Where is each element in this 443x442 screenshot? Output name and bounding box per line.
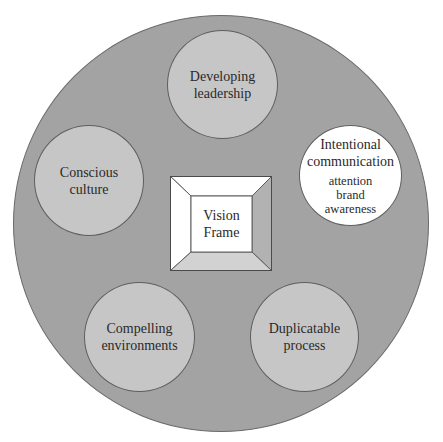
node-sublabel: attention brand awareness <box>325 174 376 216</box>
node-label: Compelling environments <box>101 320 177 354</box>
node-label: Intentional communication <box>307 136 394 170</box>
node-intentional-communication: Intentional communication attention bran… <box>299 125 402 226</box>
node-developing-leadership: Developing leadership <box>167 30 278 139</box>
vision-frame: Vision Frame <box>170 176 272 271</box>
vision-frame-label: Vision Frame <box>191 196 252 252</box>
node-label: Developing leadership <box>190 68 255 102</box>
node-label: Duplicatable process <box>269 320 341 354</box>
node-label: Conscious culture <box>60 164 118 198</box>
node-duplicatable-process: Duplicatable process <box>250 282 359 392</box>
node-conscious-culture: Conscious culture <box>34 125 144 236</box>
node-compelling-environments: Compelling environments <box>84 282 195 392</box>
diagram-canvas: Developing leadership Intentional commun… <box>0 0 443 442</box>
